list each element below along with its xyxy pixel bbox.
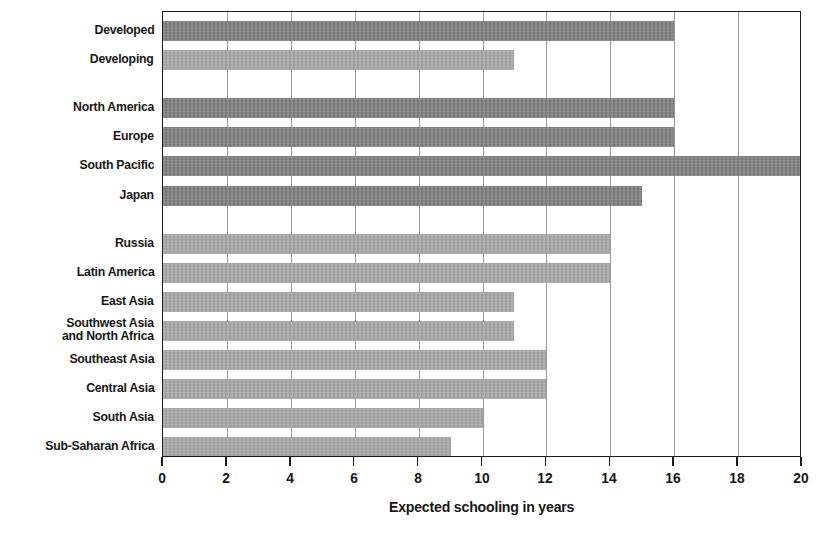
x-axis-tick (161, 457, 163, 466)
x-axis-tick (545, 457, 547, 466)
category-label: Europe (113, 129, 154, 143)
x-axis-title: Expected schooling in years (162, 498, 801, 515)
bar (163, 21, 674, 41)
category-label: Southeast Asia (69, 352, 154, 366)
category-label: Developed (94, 23, 154, 37)
gridline (610, 12, 611, 456)
category-label: South Pacific (79, 158, 154, 172)
plot-area (162, 11, 801, 457)
x-axis-tick-label: 4 (286, 469, 294, 486)
x-axis-tick (353, 457, 355, 466)
category-label: Latin America (76, 265, 154, 279)
category-label: Southwest Asia and North Africa (62, 316, 154, 343)
category-label: Central Asia (86, 381, 154, 395)
x-axis-tick (417, 457, 419, 466)
x-axis-tick-label: 20 (793, 469, 808, 486)
bar (163, 50, 514, 70)
x-axis-tick-label: 10 (474, 469, 489, 486)
bar (163, 292, 514, 312)
bar (163, 234, 610, 254)
x-axis-tick-label: 18 (729, 469, 744, 486)
bar (163, 263, 610, 283)
bar (163, 127, 674, 147)
x-axis-tick-label: 14 (602, 469, 617, 486)
bar (163, 98, 674, 118)
category-label: Developing (90, 52, 154, 66)
x-axis-tick-label: 16 (666, 469, 681, 486)
x-axis-title-text: Expected schooling in years (389, 498, 574, 515)
gridline (738, 12, 739, 456)
gridline (674, 12, 675, 456)
x-axis-tick (800, 457, 802, 466)
x-axis-tick (672, 457, 674, 466)
category-label: North America (73, 100, 154, 114)
bar (163, 350, 546, 370)
bar (163, 408, 483, 428)
x-axis-tick (736, 457, 738, 466)
bar (163, 186, 642, 206)
x-axis-tick-label: 0 (158, 469, 166, 486)
x-axis-tick-label: 6 (350, 469, 358, 486)
bar (163, 156, 801, 176)
category-label: East Asia (101, 294, 154, 308)
expected-schooling-bar-chart: DevelopedDevelopingNorth AmericaEuropeSo… (0, 0, 824, 536)
category-label: Japan (120, 188, 154, 202)
bar (163, 321, 514, 341)
x-axis-tick-label: 2 (222, 469, 230, 486)
bar (163, 437, 451, 457)
category-label: South Asia (93, 410, 154, 424)
x-axis-tick (289, 457, 291, 466)
category-label: Sub-Saharan Africa (45, 439, 154, 453)
x-axis: 02468101214161820 (162, 457, 801, 497)
category-label: Russia (115, 236, 154, 250)
x-axis-tick (609, 457, 611, 466)
category-label-column: DevelopedDevelopingNorth AmericaEuropeSo… (0, 11, 158, 457)
x-axis-tick (481, 457, 483, 466)
x-axis-tick (225, 457, 227, 466)
bar (163, 379, 546, 399)
x-axis-tick-label: 12 (538, 469, 553, 486)
x-axis-tick-label: 8 (414, 469, 422, 486)
